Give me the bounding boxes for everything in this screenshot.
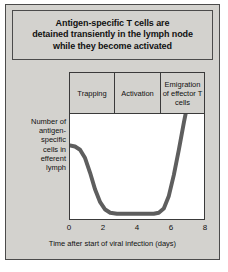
y-axis-label-line-3: specific bbox=[14, 135, 66, 144]
y-axis-label-line-5: efferent bbox=[14, 154, 66, 163]
phase-label-emigration: Emigration of effector T cells bbox=[160, 73, 204, 113]
x-tick-label-1: 2 bbox=[101, 223, 105, 232]
y-axis-label-line-4: cells in bbox=[14, 145, 66, 154]
y-axis-label-line-6: lymph bbox=[14, 163, 66, 172]
y-axis-label-line-2: antigen- bbox=[14, 126, 66, 135]
x-axis-label: Time after start of viral infection (day… bbox=[12, 239, 213, 248]
data-curve-svg bbox=[70, 114, 204, 219]
figure-root: Antigen-specific T cells are detained tr… bbox=[0, 0, 228, 272]
y-axis-label-line-1: Number of bbox=[14, 117, 66, 126]
x-tick-label-3: 6 bbox=[169, 223, 173, 232]
data-curve bbox=[70, 114, 186, 214]
x-axis-ticks: 02468 bbox=[69, 223, 205, 235]
phase-label-trapping: Trapping bbox=[70, 73, 114, 113]
plot-area bbox=[69, 114, 205, 220]
x-tick-label-2: 4 bbox=[135, 223, 139, 232]
figure-panel: Antigen-specific T cells are detained tr… bbox=[5, 4, 220, 260]
x-tick-label-4: 8 bbox=[203, 223, 207, 232]
phase-header-strip: Trapping Activation Emigration of effect… bbox=[69, 72, 205, 114]
phase-label-activation: Activation bbox=[114, 73, 160, 113]
chart-area: Trapping Activation Emigration of effect… bbox=[6, 5, 219, 259]
y-axis-label: Number of antigen- specific cells in eff… bbox=[14, 117, 66, 172]
x-tick-label-0: 0 bbox=[67, 223, 71, 232]
